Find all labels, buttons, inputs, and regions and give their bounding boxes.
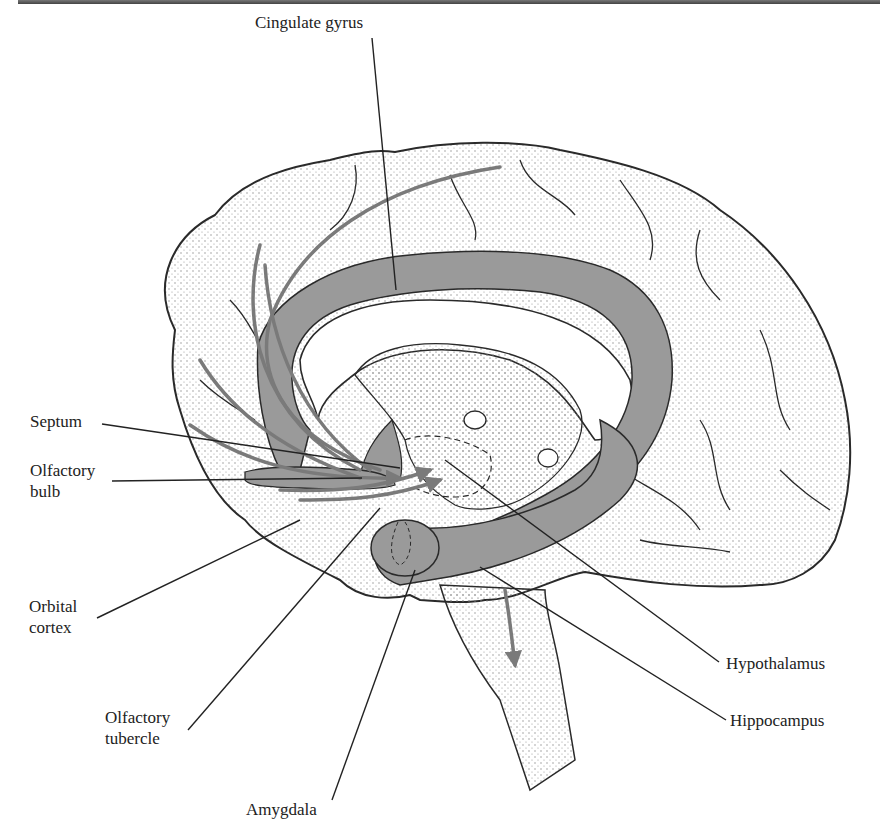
label-olfactory-bulb-line1: Olfactory [30,460,95,481]
label-cingulate-gyrus: Cingulate gyrus [255,12,363,33]
label-orbital-cortex-line1: Orbital [29,596,77,617]
label-hypothalamus-text: Hypothalamus [726,653,825,674]
mammillary-body [464,411,486,429]
label-olfactory-bulb-line2: bulb [30,481,95,502]
brain-diagram [0,0,880,827]
label-hypothalamus: Hypothalamus [726,653,825,674]
amygdala-region [371,520,439,576]
label-orbital-cortex-line2: cortex [29,617,77,638]
label-olfactory-bulb: Olfactory bulb [30,460,95,502]
label-septum: Septum [30,411,82,432]
label-septum-text: Septum [30,411,82,432]
label-olfactory-tubercle: Olfactory tubercle [105,707,170,749]
label-hippocampus-text: Hippocampus [730,710,824,731]
label-olfactory-tubercle-line2: tubercle [105,728,170,749]
label-amygdala: Amygdala [246,799,317,820]
pineal-region [538,449,558,467]
label-olfactory-tubercle-line1: Olfactory [105,707,170,728]
label-hippocampus: Hippocampus [730,710,824,731]
label-orbital-cortex: Orbital cortex [29,596,77,638]
label-cingulate-gyrus-text: Cingulate gyrus [255,12,363,33]
label-amygdala-text: Amygdala [246,799,317,820]
